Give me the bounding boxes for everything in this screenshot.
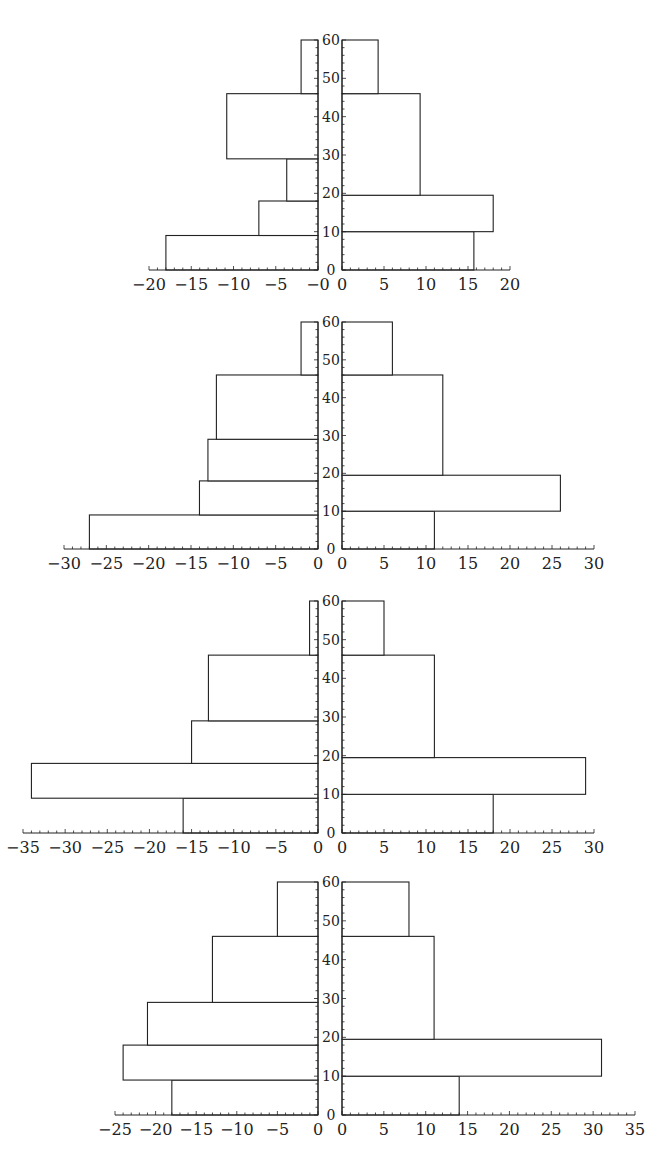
left-x-tick-label: −15 (174, 554, 208, 573)
y-tick-label: 40 (322, 390, 340, 406)
left-x-tick-label: −25 (90, 838, 124, 857)
left-x-tick-label: −25 (98, 1120, 132, 1139)
right-bar (342, 322, 392, 375)
right-bar (342, 1076, 459, 1115)
left-bar (208, 439, 318, 481)
butterfly-chart-stack: 0102030405060−20−15−10−5−005101520010203… (0, 0, 665, 1152)
left-bar (166, 236, 318, 271)
left-x-tick-label: −5 (264, 838, 288, 857)
left-x-tick-label: −10 (220, 1120, 254, 1139)
left-x-tick-label: −5 (264, 554, 288, 573)
y-tick-label: 60 (322, 874, 340, 890)
left-x-tick-label: −15 (175, 838, 209, 857)
right-x-tick-label: 30 (584, 838, 604, 857)
right-x-tick-label: 5 (379, 1120, 389, 1139)
left-bar (31, 763, 318, 798)
left-bar (172, 1080, 318, 1115)
left-bar (277, 882, 318, 936)
right-bar (342, 794, 493, 833)
left-x-tick-label: −20 (133, 838, 167, 857)
left-bar (208, 655, 318, 721)
left-bar (259, 201, 318, 236)
right-x-tick-label: 10 (416, 554, 436, 573)
y-tick-label: 30 (322, 147, 340, 163)
right-x-tick-label: 0 (337, 554, 347, 573)
left-bar (89, 515, 318, 549)
y-tick-label: 0 (327, 541, 336, 557)
right-bar (342, 94, 420, 196)
chart-1: 0102030405060−20−15−10−5−005101520 (132, 32, 520, 294)
left-x-tick-label: −0 (306, 275, 330, 294)
left-x-tick-label: −30 (48, 838, 82, 857)
right-bar (342, 511, 434, 549)
y-tick-label: 10 (322, 786, 340, 802)
left-bar (192, 721, 318, 764)
right-bar (342, 936, 434, 1039)
left-x-tick-label: 0 (313, 554, 323, 573)
left-bar (199, 481, 318, 515)
left-x-tick-label: −35 (6, 838, 40, 857)
left-bar (123, 1045, 318, 1080)
y-tick-label: 30 (322, 991, 340, 1007)
charts-canvas: 0102030405060−20−15−10−5−005101520010203… (0, 0, 665, 1152)
y-tick-label: 10 (322, 503, 340, 519)
right-x-tick-label: 5 (379, 554, 389, 573)
y-tick-label: 10 (322, 1068, 340, 1084)
right-x-tick-label: 30 (584, 554, 604, 573)
y-tick-label: 40 (322, 952, 340, 968)
left-x-tick-label: −20 (132, 554, 166, 573)
right-x-tick-label: 10 (416, 1120, 436, 1139)
left-bar (216, 375, 318, 439)
left-x-tick-label: −10 (216, 554, 250, 573)
left-x-tick-label: −25 (89, 554, 123, 573)
left-x-tick-label: −5 (266, 1120, 290, 1139)
left-bar (183, 798, 318, 833)
y-tick-label: 50 (322, 352, 340, 368)
left-bar (147, 1002, 318, 1045)
right-x-tick-label: 15 (457, 1120, 477, 1139)
y-tick-label: 30 (322, 709, 340, 725)
y-tick-label: 40 (322, 670, 340, 686)
right-x-tick-label: 20 (499, 1120, 519, 1139)
right-bar (342, 758, 586, 795)
right-x-tick-label: 5 (379, 838, 389, 857)
left-bar (287, 159, 318, 201)
right-x-tick-label: 10 (416, 275, 436, 294)
y-tick-label: 20 (322, 185, 340, 201)
right-bar (342, 232, 474, 270)
chart-4: 0102030405060−25−20−15−10−50051015202530… (98, 874, 645, 1139)
right-bar (342, 40, 378, 94)
right-x-tick-label: 0 (337, 1120, 347, 1139)
left-x-tick-label: −10 (217, 275, 251, 294)
right-bar (342, 375, 443, 475)
y-tick-label: 20 (322, 1029, 340, 1045)
left-x-tick-label: −20 (132, 275, 166, 294)
y-tick-label: 10 (322, 224, 340, 240)
left-bar (301, 40, 318, 94)
y-tick-label: 50 (322, 632, 340, 648)
right-x-tick-label: 0 (337, 838, 347, 857)
y-tick-label: 20 (322, 748, 340, 764)
right-x-tick-label: 30 (583, 1120, 603, 1139)
left-x-tick-label: −15 (174, 275, 208, 294)
left-x-tick-label: 0 (313, 1120, 323, 1139)
y-tick-label: 50 (322, 913, 340, 929)
y-tick-label: 20 (322, 465, 340, 481)
left-x-tick-label: −20 (139, 1120, 173, 1139)
right-bar (342, 882, 409, 936)
y-tick-label: 50 (322, 70, 340, 86)
y-tick-label: 60 (322, 32, 340, 48)
y-tick-label: 40 (322, 109, 340, 125)
right-x-tick-label: 15 (458, 275, 478, 294)
left-x-tick-label: −5 (264, 275, 288, 294)
right-x-tick-label: 15 (458, 554, 478, 573)
left-x-tick-label: −10 (217, 838, 251, 857)
y-tick-label: 30 (322, 428, 340, 444)
left-bar (212, 936, 318, 1002)
right-x-tick-label: 35 (625, 1120, 645, 1139)
right-bar (342, 475, 560, 511)
right-bar (342, 1039, 602, 1076)
right-x-tick-label: 0 (337, 275, 347, 294)
left-x-tick-label: −15 (179, 1120, 213, 1139)
right-x-tick-label: 10 (416, 838, 436, 857)
